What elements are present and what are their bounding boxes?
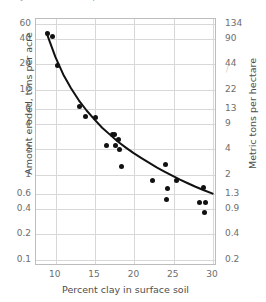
data-point — [164, 197, 169, 202]
y-tick-label-right: 0.2 — [225, 254, 239, 264]
y-tick-label-right: 22 — [225, 84, 236, 94]
data-point — [163, 162, 168, 167]
y-tick-label-right: 4 — [225, 143, 231, 153]
y-tick-label-left: 0.4 — [4, 203, 31, 213]
y-tick-label-right: 1.3 — [225, 188, 239, 198]
axis-artifact-mark: / — [226, 65, 229, 74]
figure-title-text: Clay in the soil compared with the amoun… — [6, 0, 256, 1]
x-tick-label: 25 — [167, 269, 178, 279]
x-tick-label: 10 — [49, 269, 60, 279]
x-tick-label: 15 — [88, 269, 99, 279]
y-tick-label-right: 2 — [225, 169, 231, 179]
data-point — [55, 63, 60, 68]
x-axis-title: Percent clay in surface soil — [35, 284, 216, 295]
y-tick-label-right: 134 — [225, 18, 242, 28]
y-axis-right-title: Metric tons per hectare — [247, 34, 258, 194]
y-tick-label-right: 9 — [225, 118, 231, 128]
x-tick-label: 30 — [206, 269, 217, 279]
data-point — [45, 31, 50, 36]
y-tick-label-left: 0.2 — [4, 228, 31, 238]
erosion-vs-clay-figure: Clay in the soil compared with the amoun… — [0, 0, 266, 302]
y-tick-label-right: 90 — [225, 33, 236, 43]
y-tick-label-right: 13 — [225, 103, 236, 113]
plot-area — [35, 18, 216, 265]
x-tick-label: 20 — [128, 269, 139, 279]
y-tick-label-right: 0.9 — [225, 203, 239, 213]
data-point — [112, 132, 117, 137]
data-point — [93, 115, 98, 120]
fitted-trend-curve — [36, 19, 215, 264]
data-point — [165, 186, 170, 191]
figure-title-cropped: Clay in the soil compared with the amoun… — [0, 0, 266, 9]
y-tick-label-right: 0.4 — [225, 228, 239, 238]
data-point — [197, 200, 202, 205]
data-point — [117, 147, 122, 152]
data-point — [150, 178, 155, 183]
y-axis-left-title: Amount eroded, tons per acre — [23, 14, 34, 194]
data-point — [77, 104, 82, 109]
data-point — [201, 185, 206, 190]
y-tick-label-left: 0.1 — [4, 254, 31, 264]
data-point — [119, 164, 124, 169]
data-point — [83, 114, 88, 119]
x-axis-ticks: 1015202530 — [35, 269, 216, 283]
